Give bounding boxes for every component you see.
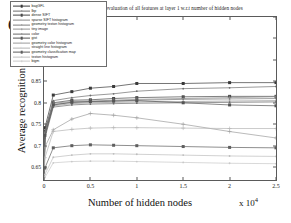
data-point: [52, 162, 54, 164]
data-point: [136, 102, 138, 104]
y-tick-mark: [273, 81, 276, 82]
data-point: [70, 101, 73, 104]
data-point: [182, 162, 184, 164]
series-line: [44, 97, 276, 179]
legend-square-marker-icon: [20, 14, 23, 17]
series-line: [44, 102, 276, 179]
data-point: [70, 90, 73, 93]
legend-square-marker-icon: [20, 51, 23, 54]
figure-panel: (a) Average recognition rate Performance…: [0, 0, 291, 223]
data-point: [90, 95, 92, 97]
data-point: [136, 153, 138, 155]
x-tick-mark: [229, 177, 230, 180]
legend-item-bigm[interactable]: bigm: [13, 59, 104, 64]
x-tick-label: 1: [135, 183, 138, 189]
data-point: [275, 86, 276, 88]
legend-label: bigm: [30, 59, 39, 64]
series-color: [44, 101, 276, 179]
series-straight-line-histogram: [44, 126, 276, 179]
data-point: [90, 153, 92, 155]
data-point: [229, 87, 231, 89]
data-point: [181, 122, 185, 126]
series-line: [44, 101, 276, 180]
series-line: [44, 101, 276, 180]
data-point: [135, 99, 138, 102]
y-tick-mark: [273, 102, 276, 103]
y-tick-mark: [273, 145, 276, 146]
data-point: [71, 104, 73, 106]
data-point: [71, 161, 73, 163]
data-point: [275, 156, 276, 158]
data-point: [52, 156, 54, 158]
data-point: [71, 97, 73, 99]
x-tick-mark: [44, 177, 45, 180]
data-point: [275, 104, 277, 107]
legend-square-marker-icon: [20, 37, 23, 40]
series-line: [44, 99, 276, 180]
data-point: [112, 126, 116, 130]
y-tick-label: 0.8: [34, 100, 41, 106]
data-point: [182, 88, 184, 90]
data-point: [44, 134, 46, 137]
data-point: [52, 146, 55, 149]
data-point: [274, 127, 276, 131]
data-point: [89, 100, 92, 103]
data-point: [113, 93, 115, 95]
x-tick-label: 0.5: [87, 183, 95, 189]
x-tick-label: 0: [43, 183, 46, 189]
y-tick-mark: [273, 38, 276, 39]
data-point: [182, 82, 185, 85]
x-tick-mark: [183, 17, 184, 20]
x-tick-label: 2.5: [272, 183, 280, 189]
x-tick-mark: [136, 17, 137, 20]
data-point: [182, 154, 184, 156]
x-multiplier-base: x 10: [239, 198, 255, 208]
data-point: [89, 143, 92, 146]
data-point: [71, 154, 73, 156]
series-line: [44, 161, 276, 179]
data-point: [112, 144, 115, 147]
legend-sample: [13, 59, 30, 64]
y-tick-label: 0.7: [34, 143, 41, 149]
data-point: [89, 87, 92, 90]
data-point: [182, 145, 185, 148]
data-point: [52, 103, 55, 106]
series-geometry-texton-histogram: [44, 98, 276, 180]
legend-square-marker-icon: [20, 5, 23, 8]
series-dense-sift: [44, 95, 276, 179]
x-tick-mark: [90, 177, 91, 180]
data-point: [228, 127, 232, 131]
data-point: [88, 112, 92, 116]
data-point: [112, 100, 115, 103]
data-point: [113, 153, 115, 155]
legend-plus-marker-icon: +: [20, 42, 23, 45]
y-tick-label: 0.65: [31, 164, 41, 170]
data-point: [275, 146, 277, 149]
data-point: [274, 136, 276, 140]
data-point: [182, 98, 184, 100]
y-tick-mark: [273, 167, 276, 168]
data-point: [90, 160, 92, 162]
x-multiplier-exponent: 4: [255, 196, 258, 203]
data-point: [135, 82, 138, 85]
legend: bagGFLlbpdense SIFT+sparse SIFT histogra…: [10, 1, 107, 67]
series-sparse-sift-histogram: [44, 95, 276, 179]
data-point: [229, 162, 231, 164]
data-point: [113, 160, 115, 162]
data-point: [229, 155, 231, 157]
series-baggfl: [44, 81, 276, 179]
data-point: [44, 174, 46, 176]
data-point: [181, 126, 185, 130]
y-tick-mark: [44, 102, 47, 103]
series-texton-histogram: [44, 153, 276, 179]
data-point: [52, 94, 55, 97]
series-bigm: [44, 160, 276, 179]
series-line: [44, 154, 276, 179]
data-point: [112, 85, 115, 88]
y-tick-label: 0.85: [31, 78, 41, 84]
x-tick-mark: [136, 177, 137, 180]
y-tick-mark: [273, 59, 276, 60]
data-point: [275, 163, 276, 165]
series-line: [44, 128, 276, 179]
x-tick-mark: [276, 17, 277, 20]
